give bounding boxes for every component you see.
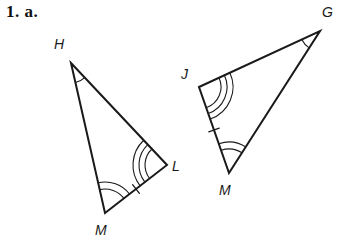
triangle-JGM	[199, 31, 320, 173]
vertex-label-L: L	[172, 158, 180, 174]
angle-arc	[145, 149, 152, 178]
vertex-label-G: G	[322, 4, 333, 20]
angle-mark-M	[98, 182, 129, 198]
angle-mark-G	[302, 39, 309, 47]
angle-arc	[221, 149, 242, 153]
triangle-JGM-outline	[199, 31, 320, 173]
angle-arc	[219, 142, 246, 147]
angle-arc	[98, 182, 129, 194]
vertex-label-J: J	[181, 66, 188, 82]
vertex-label-M2: M	[219, 182, 231, 198]
angle-arc	[139, 145, 148, 183]
vertex-label-H: H	[54, 36, 64, 52]
triangles-diagram	[0, 0, 345, 247]
vertex-label-M: M	[95, 222, 107, 238]
triangle-HML-outline	[71, 63, 167, 213]
angle-arc	[75, 78, 84, 83]
triangle-HML	[71, 63, 167, 213]
angle-arc	[100, 189, 124, 198]
angle-arc	[302, 39, 309, 47]
geometry-figure-page: 1. a. HLMJGM	[0, 0, 345, 247]
angle-mark-M2	[219, 142, 246, 153]
angle-mark-J	[206, 73, 233, 119]
angle-mark-H	[75, 78, 84, 83]
